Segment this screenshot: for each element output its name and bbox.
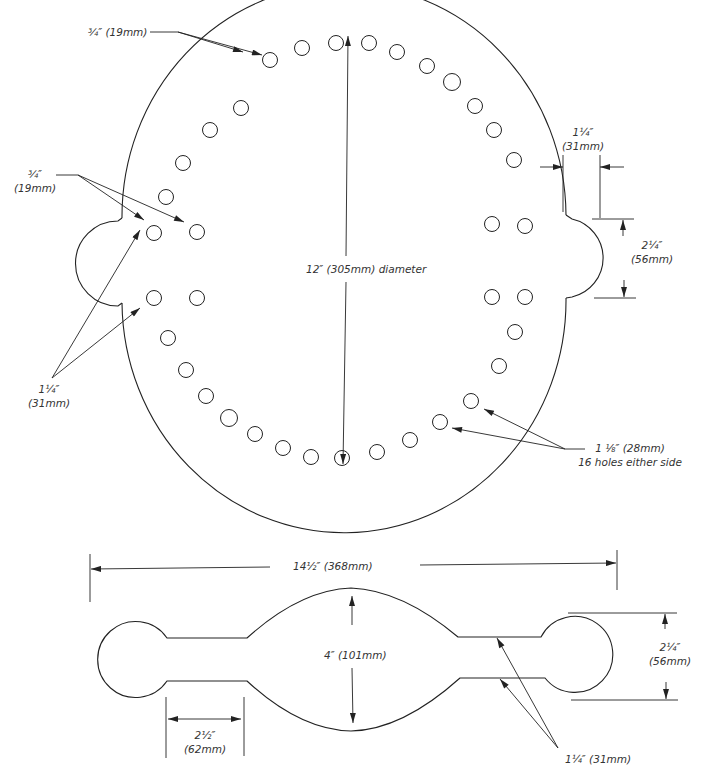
lug-width-line2: (56mm) xyxy=(624,252,680,266)
neck-length-line2: (62mm) xyxy=(175,742,235,756)
overall-length-label: 14½″ (368mm) xyxy=(293,559,373,573)
top-hole-size-label: ¾″ (19mm) xyxy=(88,25,147,39)
lug-width-line1: 2¼″ xyxy=(624,238,680,252)
neck-length-line1: 2½″ xyxy=(175,728,235,742)
left-spacing-line2: (31mm) xyxy=(24,396,74,410)
ring-holes-line2: 16 holes either side xyxy=(575,455,685,469)
ring-holes-label: 1 ⅛″ (28mm) 16 holes either side xyxy=(575,441,685,469)
left-hole-size-line2: (19mm) xyxy=(14,181,56,195)
neck-length-label: 2½″ (62mm) xyxy=(175,728,235,756)
right-offset-line2: (31mm) xyxy=(555,139,611,153)
center-width-label: 4″ (101mm) xyxy=(324,648,387,662)
lug-width-label: 2¼″ (56mm) xyxy=(624,238,680,266)
end-diameter-line1: 2¼″ xyxy=(640,640,700,654)
left-spacing-line1: 1¼″ xyxy=(24,382,74,396)
right-offset-label: 1¼″ (31mm) xyxy=(555,125,611,153)
left-hole-size-line1: ¾″ xyxy=(14,167,56,181)
hole-ring xyxy=(147,36,533,466)
left-spacing-label: 1¼″ (31mm) xyxy=(24,382,74,410)
left-hole-size-label: ¾″ (19mm) xyxy=(14,167,56,195)
right-offset-line1: 1¼″ xyxy=(555,125,611,139)
plate-dimensions xyxy=(52,32,636,464)
end-diameter-line2: (56mm) xyxy=(640,654,700,668)
ring-holes-line1: 1 ⅛″ (28mm) xyxy=(575,441,685,455)
diameter-label: 12″ (305mm) diameter xyxy=(306,262,426,276)
neck-width-label: 1¼″ (31mm) xyxy=(565,752,631,766)
end-diameter-label: 2¼″ (56mm) xyxy=(640,640,700,668)
